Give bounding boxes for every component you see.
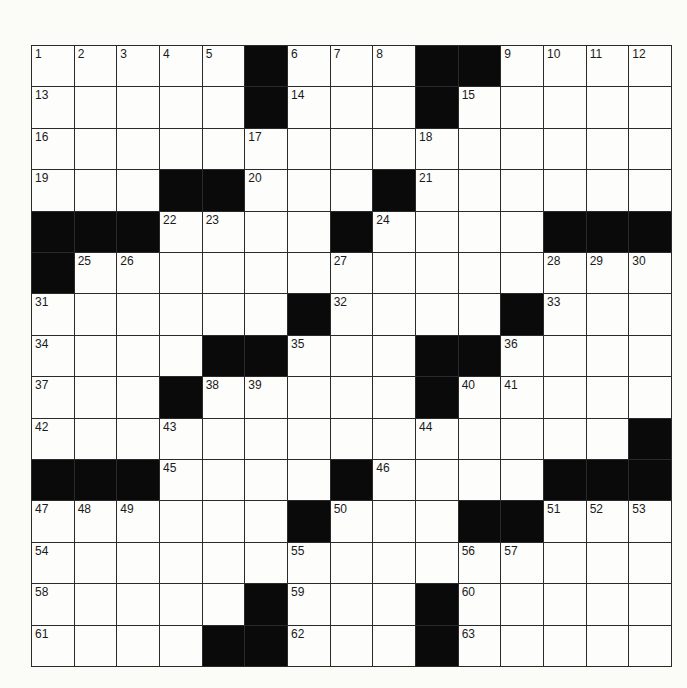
grid-cell[interactable] [288, 170, 330, 210]
grid-cell[interactable] [331, 336, 373, 376]
grid-cell[interactable] [544, 129, 586, 169]
grid-cell[interactable]: 16 [32, 129, 74, 169]
grid-cell[interactable]: 12 [629, 46, 671, 86]
grid-cell[interactable]: 33 [544, 294, 586, 334]
grid-cell[interactable] [75, 584, 117, 624]
grid-cell[interactable] [117, 626, 159, 666]
grid-cell[interactable] [160, 87, 202, 127]
grid-cell[interactable] [245, 212, 287, 252]
grid-cell[interactable] [331, 87, 373, 127]
grid-cell[interactable]: 52 [587, 501, 629, 541]
grid-cell[interactable] [501, 87, 543, 127]
grid-cell[interactable]: 40 [459, 377, 501, 417]
grid-cell[interactable] [416, 253, 458, 293]
grid-cell[interactable]: 2 [75, 46, 117, 86]
grid-cell[interactable] [203, 253, 245, 293]
grid-cell[interactable] [459, 253, 501, 293]
grid-cell[interactable] [373, 253, 415, 293]
grid-cell[interactable] [373, 294, 415, 334]
grid-cell[interactable] [117, 129, 159, 169]
grid-cell[interactable] [117, 584, 159, 624]
grid-cell[interactable] [629, 336, 671, 376]
grid-cell[interactable] [245, 294, 287, 334]
grid-cell[interactable]: 53 [629, 501, 671, 541]
grid-cell[interactable] [373, 87, 415, 127]
grid-cell[interactable] [203, 419, 245, 459]
grid-cell[interactable]: 19 [32, 170, 74, 210]
grid-cell[interactable] [288, 212, 330, 252]
grid-cell[interactable] [459, 129, 501, 169]
grid-cell[interactable] [459, 460, 501, 500]
grid-cell[interactable]: 45 [160, 460, 202, 500]
grid-cell[interactable] [117, 87, 159, 127]
grid-cell[interactable]: 17 [245, 129, 287, 169]
grid-cell[interactable] [160, 543, 202, 583]
grid-cell[interactable] [587, 543, 629, 583]
grid-cell[interactable]: 48 [75, 501, 117, 541]
grid-cell[interactable] [117, 419, 159, 459]
grid-cell[interactable]: 35 [288, 336, 330, 376]
grid-cell[interactable]: 37 [32, 377, 74, 417]
grid-cell[interactable] [501, 212, 543, 252]
grid-cell[interactable] [501, 584, 543, 624]
grid-cell[interactable]: 42 [32, 419, 74, 459]
grid-cell[interactable] [160, 253, 202, 293]
grid-cell[interactable] [203, 501, 245, 541]
grid-cell[interactable] [75, 294, 117, 334]
grid-cell[interactable] [544, 170, 586, 210]
grid-cell[interactable] [331, 419, 373, 459]
grid-cell[interactable] [373, 543, 415, 583]
grid-cell[interactable] [331, 584, 373, 624]
grid-cell[interactable] [544, 336, 586, 376]
grid-cell[interactable] [587, 584, 629, 624]
grid-cell[interactable] [629, 543, 671, 583]
grid-cell[interactable] [629, 584, 671, 624]
grid-cell[interactable]: 13 [32, 87, 74, 127]
grid-cell[interactable] [203, 129, 245, 169]
grid-cell[interactable] [373, 129, 415, 169]
grid-cell[interactable] [501, 253, 543, 293]
grid-cell[interactable] [203, 87, 245, 127]
grid-cell[interactable]: 20 [245, 170, 287, 210]
grid-cell[interactable] [501, 419, 543, 459]
grid-cell[interactable]: 49 [117, 501, 159, 541]
grid-cell[interactable] [245, 253, 287, 293]
grid-cell[interactable] [629, 129, 671, 169]
grid-cell[interactable]: 4 [160, 46, 202, 86]
grid-cell[interactable]: 63 [459, 626, 501, 666]
grid-cell[interactable] [373, 377, 415, 417]
grid-cell[interactable] [416, 460, 458, 500]
grid-cell[interactable] [288, 460, 330, 500]
grid-cell[interactable] [416, 501, 458, 541]
grid-cell[interactable] [75, 87, 117, 127]
grid-cell[interactable] [629, 626, 671, 666]
grid-cell[interactable] [160, 129, 202, 169]
grid-cell[interactable]: 7 [331, 46, 373, 86]
grid-cell[interactable] [117, 294, 159, 334]
grid-cell[interactable] [75, 336, 117, 376]
grid-cell[interactable]: 1 [32, 46, 74, 86]
grid-cell[interactable]: 22 [160, 212, 202, 252]
grid-cell[interactable]: 39 [245, 377, 287, 417]
grid-cell[interactable] [544, 626, 586, 666]
grid-cell[interactable] [416, 294, 458, 334]
grid-cell[interactable] [245, 460, 287, 500]
grid-cell[interactable] [117, 543, 159, 583]
grid-cell[interactable]: 56 [459, 543, 501, 583]
grid-cell[interactable] [459, 294, 501, 334]
grid-cell[interactable] [75, 419, 117, 459]
grid-cell[interactable] [373, 336, 415, 376]
grid-cell[interactable] [288, 419, 330, 459]
grid-cell[interactable] [203, 294, 245, 334]
grid-cell[interactable] [331, 543, 373, 583]
grid-cell[interactable]: 18 [416, 129, 458, 169]
grid-cell[interactable] [288, 377, 330, 417]
grid-cell[interactable]: 25 [75, 253, 117, 293]
grid-cell[interactable] [203, 460, 245, 500]
grid-cell[interactable]: 11 [587, 46, 629, 86]
grid-cell[interactable]: 47 [32, 501, 74, 541]
grid-cell[interactable] [629, 377, 671, 417]
grid-cell[interactable] [629, 294, 671, 334]
grid-cell[interactable] [373, 419, 415, 459]
grid-cell[interactable]: 3 [117, 46, 159, 86]
